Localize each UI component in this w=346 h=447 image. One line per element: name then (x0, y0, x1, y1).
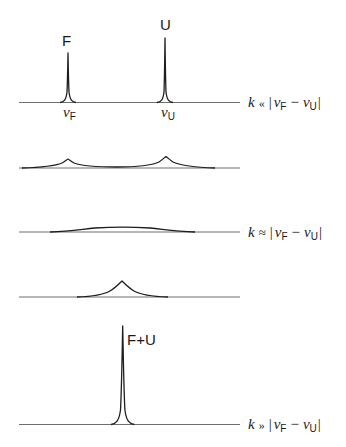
panel-fast-exchange: F+U k»|νF−νU| (19, 326, 321, 434)
peak-f (60, 53, 76, 103)
position-label-nu-u: νU (161, 104, 175, 122)
exchange-spectra-diagram: F U νF νU k«|νF−νU| k≈|νF−νU| F+U k (0, 0, 346, 447)
broadened-two-peak-curve (22, 157, 215, 169)
panel-intermediate-one-peak (19, 281, 240, 297)
peak-label-f: F (62, 32, 71, 49)
peak-label-u: U (160, 16, 171, 33)
condition-slow: k«|νF−νU| (248, 94, 321, 112)
broadened-single-peak-curve (77, 281, 168, 297)
panel-intermediate-two-peaks (19, 157, 240, 169)
flat-band-curve (50, 227, 195, 232)
condition-fast: k»|νF−νU| (248, 416, 321, 434)
panel-coalescence: k≈|νF−νU| (19, 224, 322, 242)
panel-slow-exchange: F U νF νU k«|νF−νU| (19, 16, 321, 122)
peak-label-f-plus-u: F+U (127, 331, 156, 348)
position-label-nu-f: νF (63, 104, 76, 122)
condition-coalescence: k≈|νF−νU| (248, 224, 322, 242)
peak-u (157, 38, 173, 103)
